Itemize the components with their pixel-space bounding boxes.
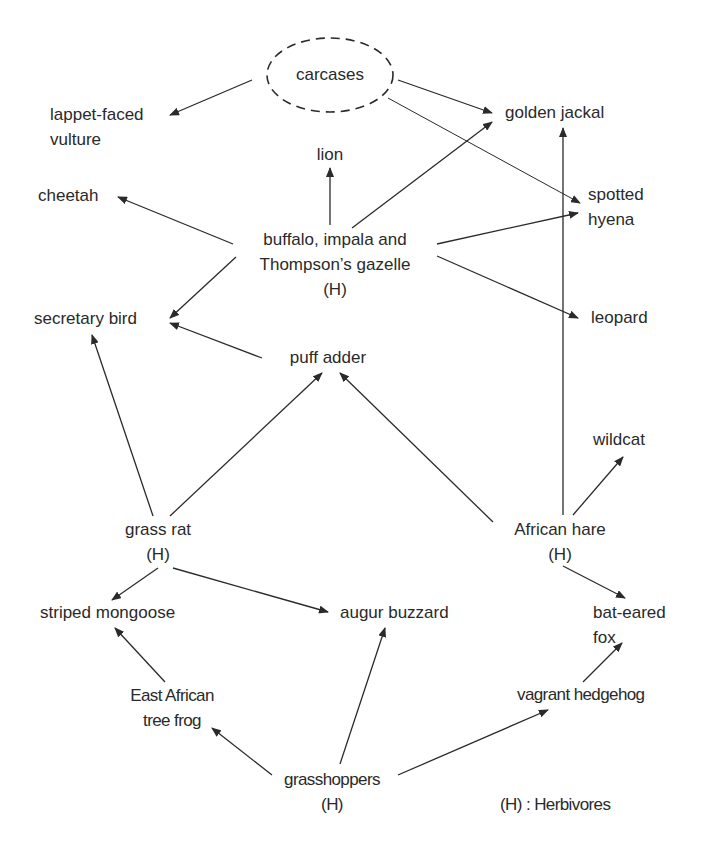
node-leopard: leopard: [591, 305, 648, 330]
node-label: cheetah: [38, 186, 99, 205]
edge-buffalo-cheetah: [118, 197, 233, 244]
node-grasshoppers: grasshoppers (H): [284, 767, 380, 817]
herbivore-marker: (H): [125, 542, 191, 567]
legend: (H) : Herbivores: [500, 792, 610, 817]
node-label: wildcat: [593, 430, 645, 449]
legend-text: (H) : Herbivores: [500, 795, 610, 814]
edge-grassrat-mongoose: [112, 568, 158, 600]
node-label-line1: lappet-faced: [50, 102, 144, 127]
node-label: puff adder: [290, 348, 366, 367]
node-east-african-tree-frog: East African tree frog: [130, 683, 214, 733]
edge-grasshoppers-hedgehog: [398, 710, 548, 775]
node-label-line2: fox: [593, 625, 666, 650]
node-vagrant-hedgehog: vagrant hedgehog: [517, 682, 644, 707]
edge-hare-wildcat: [573, 457, 623, 515]
node-african-hare: African hare (H): [514, 517, 606, 567]
edge-buffalo-leopard: [437, 256, 578, 318]
node-label-line1: East African: [130, 683, 214, 708]
node-bat-eared-fox: bat-eared fox: [593, 600, 666, 650]
node-label: augur buzzard: [340, 603, 449, 622]
node-label: striped mongoose: [40, 603, 175, 622]
node-striped-mongoose: striped mongoose: [40, 600, 175, 625]
node-label: lion: [317, 145, 343, 164]
node-golden-jackal: golden jackal: [505, 100, 604, 125]
node-label-line2: tree frog: [130, 708, 214, 733]
node-carcases: carcases: [296, 62, 364, 87]
edge-hare-puffadder: [340, 373, 493, 522]
node-secretary-bird: secretary bird: [34, 306, 137, 331]
edge-grassrat-secretary: [92, 335, 153, 516]
edge-hare-batfox: [563, 566, 625, 598]
edge-grassrat-puffadder: [170, 373, 322, 516]
node-label: vagrant hedgehog: [517, 685, 644, 704]
herbivore-marker: (H): [284, 792, 380, 817]
node-label-line1: grass rat: [125, 517, 191, 542]
node-augur-buzzard: augur buzzard: [340, 600, 449, 625]
node-label-line2: Thompson’s gazelle: [260, 252, 411, 277]
edge-grasshoppers-buzzard: [340, 628, 385, 764]
node-cheetah: cheetah: [38, 183, 99, 208]
node-label: golden jackal: [505, 103, 604, 122]
node-buffalo-impala-gazelle: buffalo, impala and Thompson’s gazelle (…: [260, 227, 411, 302]
edge-frog-mongoose: [115, 628, 165, 682]
node-grass-rat: grass rat (H): [125, 517, 191, 567]
node-label-line1: African hare: [514, 517, 606, 542]
edge-buffalo-secretary: [170, 257, 236, 318]
node-spotted-hyena: spotted hyena: [588, 182, 644, 232]
edge-carcases-vulture: [170, 80, 252, 115]
edge-puffadder-secretary: [170, 323, 262, 358]
node-label: secretary bird: [34, 309, 137, 328]
edge-buffalo-jackal: [352, 122, 492, 228]
node-label: carcases: [296, 65, 364, 84]
edge-grassrat-buzzard: [173, 568, 328, 612]
node-lappet-faced-vulture: lappet-faced vulture: [50, 102, 144, 152]
node-wildcat: wildcat: [593, 427, 645, 452]
node-label-line2: vulture: [50, 127, 144, 152]
node-label: leopard: [591, 308, 648, 327]
node-label-line1: buffalo, impala and: [260, 227, 411, 252]
node-puff-adder: puff adder: [290, 345, 366, 370]
node-lion: lion: [317, 142, 343, 167]
herbivore-marker: (H): [514, 542, 606, 567]
node-label-line1: grasshoppers: [284, 767, 380, 792]
edge-carcases-jackal: [398, 80, 492, 113]
node-label-line2: hyena: [588, 207, 644, 232]
edge-buffalo-hyena: [437, 213, 578, 244]
edge-grasshoppers-frog: [212, 728, 272, 775]
herbivore-marker: (H): [260, 277, 411, 302]
node-label-line1: bat-eared: [593, 600, 666, 625]
node-label-line1: spotted: [588, 182, 644, 207]
food-web-diagram: carcases lappet-faced vulture golden jac…: [0, 0, 711, 850]
